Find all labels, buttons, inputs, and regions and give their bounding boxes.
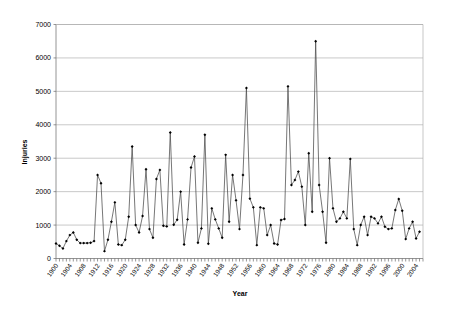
- data-point-1936: [179, 190, 182, 193]
- x-tick-label-1900: 1900: [45, 262, 59, 278]
- data-point-1970: [297, 170, 300, 173]
- data-point-1924: [138, 231, 141, 234]
- data-point-1956: [248, 197, 251, 200]
- data-point-1954: [242, 173, 245, 176]
- data-point-1963: [273, 242, 276, 245]
- x-axis-tick-marks: [56, 259, 423, 262]
- data-point-2004: [415, 237, 418, 240]
- x-tick-label-1912: 1912: [87, 262, 101, 278]
- data-point-1945: [210, 207, 213, 210]
- data-point-1947: [217, 227, 220, 230]
- x-tick-label-1936: 1936: [170, 262, 184, 278]
- data-point-1938: [186, 218, 189, 221]
- data-point-1944: [207, 242, 210, 245]
- data-point-1923: [134, 224, 137, 227]
- x-tick-label-1980: 1980: [322, 262, 336, 278]
- x-tick-label-1952: 1952: [225, 262, 239, 278]
- injuries-series-line: [56, 41, 420, 251]
- injuries-by-year-line-chart: 01000200030004000500060007000 1900190419…: [0, 0, 451, 311]
- x-tick-label-1948: 1948: [211, 262, 225, 278]
- x-tick-label-1940: 1940: [184, 262, 198, 278]
- data-point-1937: [183, 243, 186, 246]
- x-tick-label-1944: 1944: [198, 262, 212, 278]
- data-point-2000: [401, 209, 404, 212]
- x-tick-label-1996: 1996: [378, 262, 392, 278]
- data-point-1948: [221, 236, 224, 239]
- data-point-1972: [304, 224, 307, 227]
- data-point-1979: [328, 157, 331, 160]
- data-point-1984: [345, 217, 348, 220]
- data-point-1922: [131, 145, 134, 148]
- data-point-1950: [228, 220, 231, 223]
- data-point-1917: [113, 201, 116, 204]
- data-point-1913: [100, 182, 103, 185]
- x-tick-label-1932: 1932: [156, 262, 170, 278]
- data-point-1998: [394, 209, 397, 212]
- data-point-1952: [235, 199, 238, 202]
- data-point-1946: [214, 218, 217, 221]
- data-point-1959: [259, 206, 262, 209]
- data-point-1914: [103, 250, 106, 253]
- x-tick-label-2004: 2004: [405, 262, 419, 278]
- y-axis-title: Injuries: [21, 139, 29, 164]
- data-point-1965: [280, 219, 283, 222]
- data-point-1915: [106, 238, 109, 241]
- data-point-1958: [255, 244, 258, 247]
- data-point-1988: [359, 224, 362, 227]
- x-tick-label-1960: 1960: [253, 262, 267, 278]
- data-point-1918: [117, 243, 120, 246]
- x-tick-label-1968: 1968: [281, 262, 295, 278]
- data-point-2001: [404, 238, 407, 241]
- x-tick-label-1928: 1928: [142, 262, 156, 278]
- x-axis-tick-labels: 1900190419081912191619201924192819321936…: [45, 262, 419, 278]
- data-point-1951: [231, 173, 234, 176]
- data-point-1908: [82, 242, 85, 245]
- x-axis-title: Year: [233, 290, 248, 297]
- data-point-1966: [283, 218, 286, 221]
- data-point-1911: [93, 240, 96, 243]
- data-point-1916: [110, 220, 113, 223]
- data-point-1961: [266, 234, 269, 237]
- x-tick-label-1992: 1992: [364, 262, 378, 278]
- data-point-1942: [200, 227, 203, 230]
- data-point-1978: [325, 241, 328, 244]
- data-point-1977: [321, 210, 324, 213]
- data-point-1962: [269, 224, 272, 227]
- x-tick-label-1908: 1908: [73, 262, 87, 278]
- data-point-1971: [300, 185, 303, 188]
- data-point-1964: [276, 243, 279, 246]
- data-point-1989: [363, 215, 366, 218]
- data-point-1960: [262, 207, 265, 210]
- data-point-1933: [169, 131, 172, 134]
- data-point-1943: [203, 133, 206, 136]
- data-point-1999: [397, 198, 400, 201]
- data-point-1928: [151, 236, 154, 239]
- x-tick-label-1904: 1904: [59, 262, 73, 278]
- data-point-1975: [314, 40, 317, 43]
- y-tick-label-3000: 3000: [35, 155, 51, 162]
- data-point-1930: [158, 168, 161, 171]
- data-point-1940: [193, 155, 196, 158]
- x-tick-label-1916: 1916: [101, 262, 115, 278]
- data-point-1980: [332, 207, 335, 210]
- x-tick-label-1924: 1924: [128, 262, 142, 278]
- data-point-1910: [89, 241, 92, 244]
- data-point-1974: [311, 210, 314, 213]
- y-axis-tick-labels: 01000200030004000500060007000: [35, 21, 56, 262]
- y-tick-label-7000: 7000: [35, 21, 51, 28]
- data-point-1953: [238, 228, 241, 231]
- data-point-1991: [370, 215, 373, 218]
- x-tick-label-2000: 2000: [392, 262, 406, 278]
- data-point-1925: [141, 215, 144, 218]
- x-tick-label-1972: 1972: [295, 262, 309, 278]
- data-point-1997: [390, 227, 393, 230]
- data-point-1994: [380, 215, 383, 218]
- data-series-line: [56, 41, 420, 251]
- data-point-markers: [55, 40, 421, 253]
- data-point-1967: [287, 85, 290, 88]
- y-tick-label-4000: 4000: [35, 121, 51, 128]
- data-point-1912: [96, 173, 99, 176]
- data-point-1987: [356, 244, 359, 247]
- data-point-1986: [352, 228, 355, 231]
- x-tick-label-1956: 1956: [239, 262, 253, 278]
